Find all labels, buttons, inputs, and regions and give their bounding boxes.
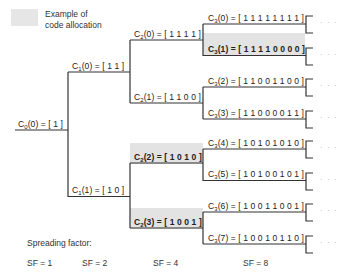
node-c3-7: C3(7) = [ 1 0 0 1 0 1 1 0 ] (208, 233, 304, 243)
node-c2-2: C2(2) = [ 1 0 1 0 ] (134, 152, 202, 162)
continuation-c3-1: · · · (320, 50, 337, 59)
node-c3-1: C3(1) = [ 1 1 1 1 0 0 0 0 ] (208, 44, 305, 54)
sf-label-2: SF = 2 (82, 258, 107, 268)
sf-label-1: SF = 1 (27, 258, 52, 268)
continuation-c3-7: · · · (320, 238, 337, 247)
node-c2-3: C2(3) = [ 1 0 0 1 ] (134, 217, 202, 227)
node-c0-0: C0(0) = [ 1 ] (18, 119, 63, 129)
continuation-c3-5: · · · (320, 175, 337, 184)
node-c3-3: C3(3) = [ 1 1 0 0 0 0 1 1 ] (208, 108, 304, 118)
continuation-c3-6: · · · (320, 206, 337, 215)
continuation-c3-3: · · · (320, 113, 337, 122)
sf-label-4: SF = 4 (153, 258, 178, 268)
node-c2-1: C2(1) = [ 1 1 0 0 ] (134, 92, 201, 102)
continuation-c3-2: · · · (320, 81, 337, 90)
node-c2-0: C2(0) = [ 1 1 1 1 ] (134, 29, 201, 39)
node-c3-5: C3(5) = [ 1 0 1 0 0 1 0 1 ] (208, 169, 304, 179)
continuation-c3-0: · · · (320, 18, 337, 27)
node-c3-4: C3(4) = [ 1 0 1 0 1 0 1 0 ] (208, 138, 304, 148)
node-c3-0: C3(0) = [ 1 1 1 1 1 1 1 1 ] (208, 13, 304, 23)
node-c3-6: C3(6) = [ 1 0 0 1 1 0 0 1 ] (208, 201, 304, 211)
sf-label-8: SF = 8 (243, 258, 268, 268)
node-c1-0: C1(0) = [ 1 1 ] (72, 61, 124, 71)
spreading-factor-title: Spreading factor: (27, 238, 92, 248)
node-c1-1: C1(1) = [ 1 0 ] (72, 185, 124, 195)
continuation-c3-4: · · · (320, 143, 337, 152)
node-c3-2: C3(2) = [ 1 1 0 0 1 1 0 0 ] (208, 76, 304, 86)
